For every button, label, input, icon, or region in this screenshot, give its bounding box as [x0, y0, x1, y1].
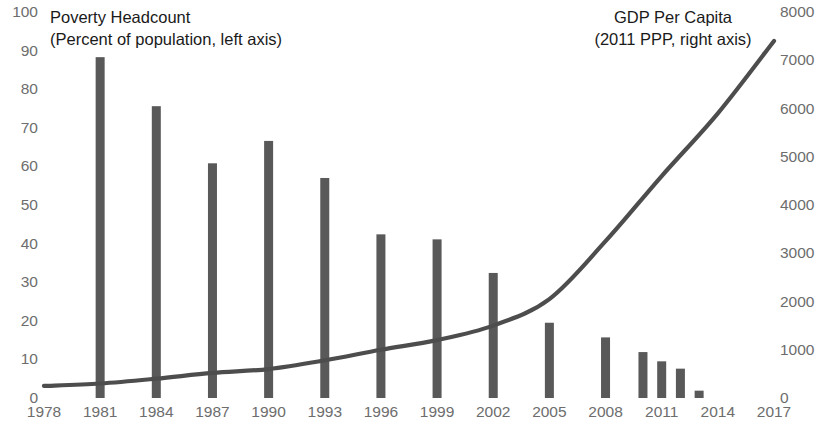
x-axis-tick: 1993 [308, 404, 342, 420]
left-axis-tick: 70 [21, 120, 38, 136]
poverty-annotation-title: Poverty Headcount [50, 8, 190, 26]
left-axis-tick: 90 [21, 43, 38, 59]
plot-svg [44, 12, 774, 398]
left-axis-tick: 60 [21, 158, 38, 174]
bar [264, 141, 273, 398]
left-axis-tick: 100 [12, 4, 38, 20]
bar [601, 337, 610, 398]
bar [695, 391, 704, 398]
gdp-annotation-title: GDP Per Capita [614, 8, 732, 26]
bar [320, 178, 329, 398]
left-axis-tick: 10 [21, 351, 38, 367]
x-axis-tick: 1984 [139, 404, 173, 420]
right-axis-tick: 3000 [780, 245, 814, 261]
bar [433, 239, 442, 398]
poverty-annotation: Poverty Headcount (Percent of population… [50, 6, 282, 50]
x-axis-tick: 2017 [757, 404, 791, 420]
right-axis-tick: 8000 [780, 4, 814, 20]
right-axis-tick: 2000 [780, 294, 814, 310]
right-axis: 010002000300040005000600070008000 [780, 0, 825, 433]
x-axis-tick: 1996 [364, 404, 398, 420]
left-axis: 0102030405060708090100 [0, 0, 38, 433]
left-axis-tick: 50 [21, 197, 38, 213]
x-axis-tick: 2005 [532, 404, 566, 420]
x-axis-tick: 1990 [251, 404, 285, 420]
plot-area [44, 12, 774, 398]
x-axis-tick: 1999 [420, 404, 454, 420]
right-axis-tick: 4000 [780, 197, 814, 213]
x-axis-tick: 2002 [476, 404, 510, 420]
bar [676, 369, 685, 398]
left-axis-tick: 80 [21, 81, 38, 97]
x-axis-tick: 1981 [83, 404, 117, 420]
bar [489, 273, 498, 398]
x-axis: 1978198119841987199019931996199920022005… [0, 404, 825, 433]
right-axis-tick: 7000 [780, 52, 814, 68]
x-axis-tick: 1987 [195, 404, 229, 420]
right-axis-tick: 5000 [780, 149, 814, 165]
left-axis-tick: 40 [21, 236, 38, 252]
right-axis-tick: 1000 [780, 342, 814, 358]
bar [96, 57, 105, 398]
bar [638, 352, 647, 398]
chart-figure: 0102030405060708090100 01000200030004000… [0, 0, 825, 433]
bar [152, 106, 161, 398]
x-axis-tick: 2008 [588, 404, 622, 420]
gdp-annotation-subtitle: (2011 PPP, right axis) [578, 28, 768, 50]
gdp-annotation: GDP Per Capita (2011 PPP, right axis) [578, 6, 768, 50]
x-axis-tick: 2011 [645, 404, 678, 420]
bar [208, 163, 217, 398]
bar [657, 361, 666, 398]
poverty-annotation-subtitle: (Percent of population, left axis) [50, 28, 282, 50]
right-axis-tick: 6000 [780, 101, 814, 117]
bar [376, 234, 385, 398]
left-axis-tick: 20 [21, 313, 38, 329]
bar [545, 323, 554, 398]
left-axis-tick: 30 [21, 274, 38, 290]
x-axis-tick: 1978 [27, 404, 61, 420]
x-axis-tick: 2014 [701, 404, 735, 420]
